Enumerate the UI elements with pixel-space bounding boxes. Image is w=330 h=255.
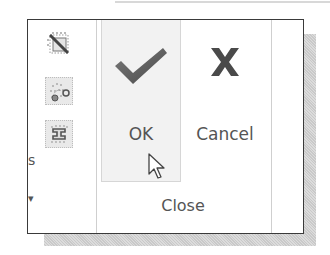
scatter-nodes-tool-button[interactable] (45, 77, 73, 105)
dropdown-arrow-icon[interactable]: ▾ (28, 192, 34, 205)
truncated-label-text: s (28, 152, 35, 168)
group-divider-right (271, 20, 272, 233)
cancel-button[interactable]: Cancel (185, 20, 265, 182)
diagonal-grid-icon (45, 30, 73, 58)
diagonal-grid-tool-button[interactable] (45, 30, 73, 58)
ribbon-panel: s ▾ OK Cancel Close (27, 19, 304, 234)
i-beam-constraint-tool-button[interactable] (45, 120, 73, 148)
scatter-nodes-icon (46, 78, 72, 104)
checkmark-icon (113, 46, 169, 86)
x-icon (208, 46, 242, 78)
ok-label: OK (102, 124, 180, 144)
mouse-cursor-icon (148, 153, 168, 181)
ok-button[interactable]: OK (101, 20, 181, 182)
cancel-label: Cancel (185, 124, 265, 144)
close-group-label: Close (96, 196, 270, 215)
background-line (115, 1, 330, 3)
i-beam-constraint-icon (46, 121, 72, 147)
tool-column: s ▾ (28, 20, 96, 233)
